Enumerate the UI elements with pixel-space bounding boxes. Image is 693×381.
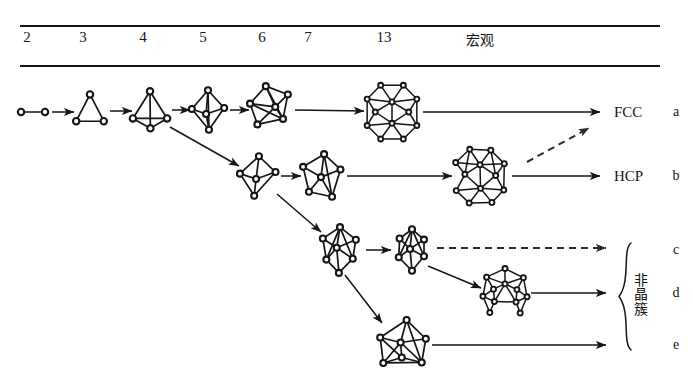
cluster-a13-13-atoms (365, 83, 420, 142)
cluster-a3-3-atoms (73, 91, 107, 124)
cluster-a5-5-atoms (189, 87, 227, 133)
brace-layer (619, 243, 631, 350)
diagram-svg (0, 0, 693, 381)
cluster-a6-6-atoms (247, 83, 291, 127)
brace-label-char: 簇 (633, 302, 650, 316)
cluster-b6-6-atoms (300, 151, 343, 200)
arrow-ar-c7-d13 (428, 266, 481, 288)
brace-label-char: 非 (633, 273, 650, 287)
row-letter-e: e (673, 337, 679, 353)
header-column-size-2: 2 (23, 29, 31, 46)
header-column-macroscopic: 宏观 (466, 29, 494, 49)
cluster-d13-13-atoms (480, 266, 529, 315)
cluster-c7-7-atoms (396, 226, 427, 274)
amorphous-cluster-label: 非晶簇 (633, 273, 650, 316)
row-letter-b: b (673, 168, 680, 184)
arrow-layer (52, 110, 606, 345)
endpoint-label-hcp: HCP (614, 168, 643, 185)
header-column-size-3: 3 (79, 29, 87, 46)
arrow-ar-b13-fcc (527, 128, 589, 162)
header-column-size-13: 13 (377, 29, 392, 46)
arrow-ar-a4-b5 (170, 127, 239, 166)
cluster-c6-6-atoms (320, 224, 359, 276)
row-letter-a: a (673, 104, 679, 120)
cluster-a4-4-atoms (130, 88, 171, 131)
row-letter-c: c (673, 242, 679, 258)
cluster-b13-13-atoms (453, 147, 507, 206)
header-column-size-5: 5 (199, 29, 207, 46)
arrow-ar-b5-c6 (277, 194, 321, 232)
header-column-size-4: 4 (139, 29, 147, 46)
amorphous-group-brace (619, 243, 631, 350)
cluster-b5-5-atoms (237, 153, 279, 199)
endpoint-label-fcc: FCC (614, 104, 642, 121)
figure-canvas: 23456713宏观 FCCHCP abcde 非晶簇 (0, 0, 693, 381)
cluster-a2-2-atoms (18, 109, 48, 115)
brace-label-char: 晶 (633, 288, 650, 302)
cluster-layer (18, 83, 530, 366)
cluster-e7-7-atoms (377, 317, 429, 366)
arrow-ar-a6-a13 (295, 110, 364, 111)
arrow-ar-c6-e7 (345, 275, 382, 323)
header-column-size-7: 7 (304, 29, 312, 46)
header-column-size-6: 6 (258, 29, 266, 46)
header-rules (20, 26, 660, 66)
row-letter-d: d (673, 285, 680, 301)
